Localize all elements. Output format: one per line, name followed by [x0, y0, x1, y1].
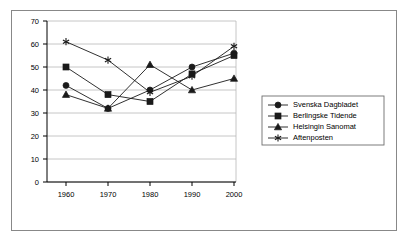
- data-point-star: [105, 57, 111, 64]
- legend-marker-circle: [275, 102, 281, 108]
- grid-lines: [47, 21, 236, 182]
- y-tick-label: 0: [35, 178, 39, 187]
- series-berlingske-tidende: [63, 53, 237, 105]
- y-tick-label: 10: [31, 155, 39, 164]
- legend-label: Helsingin Sanomat: [293, 122, 357, 131]
- x-tick-label: 1980: [142, 190, 159, 199]
- x-tick-label: 2000: [226, 190, 243, 199]
- y-tick-label: 50: [31, 63, 39, 72]
- data-point-circle: [63, 82, 69, 88]
- legend-label: Aftenposten: [293, 133, 333, 142]
- chart-figure: 70 60 50 40 30 20 10 0 1960 1970 1980 19…: [0, 0, 408, 241]
- data-point-triangle: [62, 91, 69, 97]
- x-axis: 1960 1970 1980 1990 2000: [47, 182, 242, 199]
- legend-marker-square: [275, 113, 281, 119]
- data-point-square: [231, 53, 237, 59]
- y-tick-label: 20: [31, 132, 39, 141]
- data-point-square: [147, 99, 153, 105]
- y-tick-label: 30: [31, 109, 39, 118]
- data-point-triangle: [230, 75, 237, 81]
- data-point-square: [63, 64, 69, 70]
- y-tick-label: 70: [31, 17, 39, 26]
- y-tick-label: 60: [31, 40, 39, 49]
- line-chart: 70 60 50 40 30 20 10 0 1960 1970 1980 19…: [0, 0, 408, 241]
- y-tick-label: 40: [31, 86, 39, 95]
- data-point-square: [105, 92, 111, 98]
- x-tick-label: 1990: [184, 190, 201, 199]
- series-layer: [62, 38, 237, 111]
- y-axis: 70 60 50 40 30 20 10 0: [31, 17, 47, 187]
- data-point-circle: [189, 64, 195, 70]
- legend: Svenska DagbladetBerlingske TidendeHelsi…: [262, 96, 384, 145]
- data-point-triangle: [146, 61, 153, 67]
- legend-label: Svenska Dagbladet: [293, 100, 359, 109]
- legend-label: Berlingske Tidende: [293, 111, 357, 120]
- x-tick-label: 1960: [58, 190, 75, 199]
- x-tick-label: 1970: [100, 190, 117, 199]
